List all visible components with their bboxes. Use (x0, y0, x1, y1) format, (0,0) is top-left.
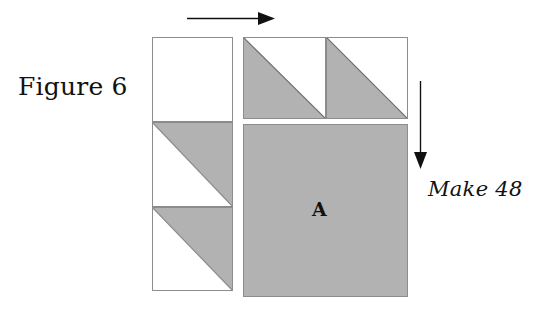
square-a-label: A (312, 198, 327, 220)
plain-white-patch-shape (152, 37, 233, 122)
top-strip-patch-1 (243, 37, 326, 119)
left-strip-patch-1 (152, 37, 233, 122)
figure-caption: Figure 6 (18, 72, 128, 101)
half-square-triangle-lower-left-shape (243, 37, 326, 119)
left-strip-patch-3 (152, 207, 233, 291)
half-square-triangle-upper-right-shape (152, 122, 233, 207)
press-direction-arrow-vertical-icon (412, 80, 430, 172)
half-square-triangle-upper-right-shape (152, 207, 233, 291)
half-square-triangle-lower-left-shape (326, 37, 408, 119)
figure-diagram: Figure 6 (0, 0, 552, 322)
left-strip-patch-2 (152, 122, 233, 207)
make-count-label: Make 48 (428, 177, 523, 201)
press-direction-arrow-horizontal-icon (186, 10, 278, 28)
top-strip-patch-2 (326, 37, 408, 119)
